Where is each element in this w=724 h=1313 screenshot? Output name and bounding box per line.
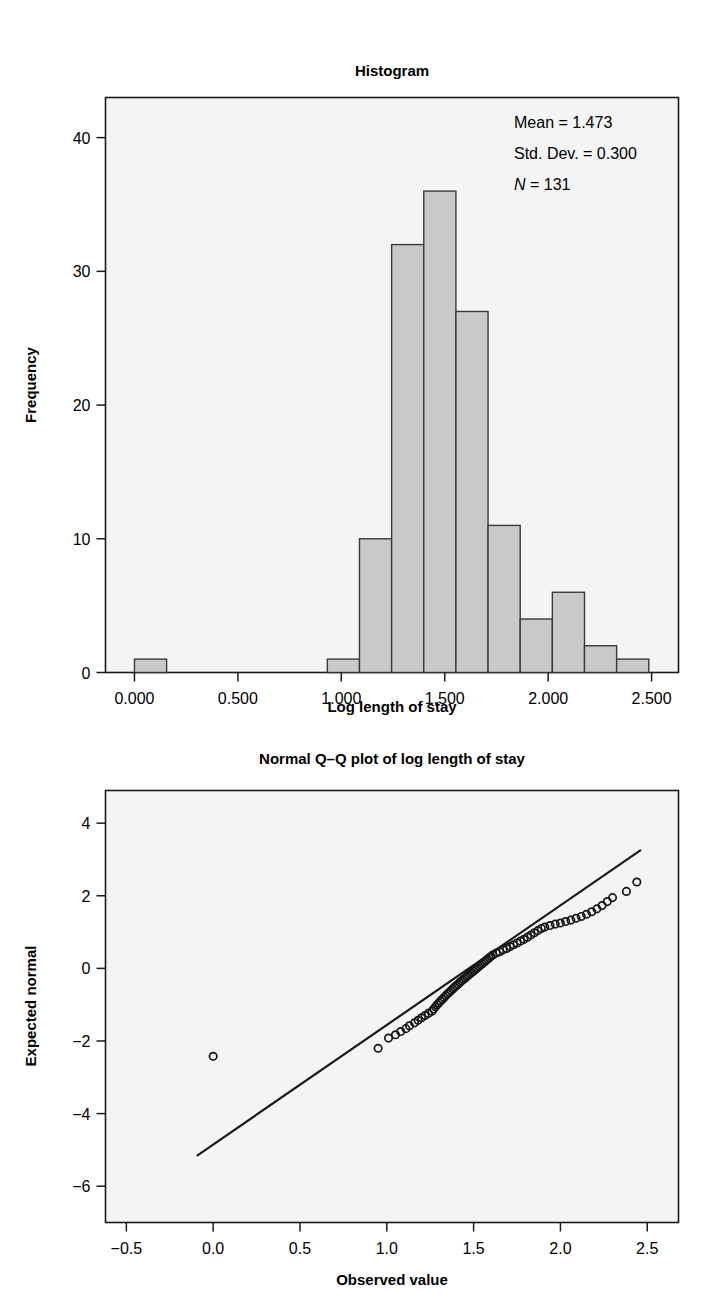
histogram-stddev-annotation: Std. Dev. = 0.300	[514, 145, 637, 162]
histogram-y-axis-label: Frequency	[22, 346, 39, 423]
histogram-panel: Histogram 0.0000.5001.0001.5002.0002.500…	[0, 0, 724, 740]
qq-x-axis-label: Observed value	[336, 1271, 448, 1288]
statistical-figure-page: Histogram 0.0000.5001.0001.5002.0002.500…	[0, 0, 724, 1313]
qq-y-axis-label: Expected normal	[22, 946, 39, 1067]
qq-x-tick-label: 0.5	[289, 1240, 311, 1257]
histogram-bar	[456, 311, 488, 672]
histogram-y-tick-label: 10	[73, 531, 91, 548]
histogram-bar	[617, 659, 649, 672]
qq-y-tick-label: 0	[82, 960, 91, 977]
qq-y-tick-label: −2	[72, 1033, 90, 1050]
qq-x-tick-label: 0.0	[202, 1240, 224, 1257]
qq-x-tick-label: −0.5	[111, 1240, 143, 1257]
histogram-n-symbol: N	[514, 176, 526, 193]
histogram-bar	[552, 592, 584, 672]
histogram-y-tick-label: 30	[73, 263, 91, 280]
histogram-n-value: = 131	[526, 176, 571, 193]
histogram-bar	[134, 659, 166, 672]
qq-x-tick-label: 1.0	[376, 1240, 398, 1257]
qq-y-tick-label: 4	[82, 815, 91, 832]
histogram-chart: Histogram 0.0000.5001.0001.5002.0002.500…	[0, 0, 724, 740]
histogram-bar	[359, 539, 391, 673]
histogram-x-axis-label: Log length of stay	[327, 698, 457, 715]
histogram-x-tick-label: 2.000	[528, 690, 568, 707]
qq-plot-frame	[106, 791, 679, 1223]
histogram-mean-annotation: Mean = 1.473	[514, 114, 612, 131]
histogram-y-tick-label: 40	[73, 130, 91, 147]
histogram-bar	[488, 525, 520, 672]
histogram-bar	[424, 191, 456, 672]
histogram-y-tick-label: 0	[82, 665, 91, 682]
histogram-n-annotation: N = 131	[514, 176, 571, 193]
qq-x-axis-ticks: −0.50.00.51.01.52.02.5	[111, 1223, 659, 1257]
histogram-bar	[327, 659, 359, 672]
histogram-x-tick-label: 2.500	[632, 690, 672, 707]
histogram-y-tick-label: 20	[73, 397, 91, 414]
qq-x-tick-label: 2.5	[636, 1240, 658, 1257]
qq-x-tick-label: 2.0	[549, 1240, 571, 1257]
qq-y-axis-ticks: 420−2−4−6	[72, 815, 105, 1195]
qq-y-tick-label: 2	[82, 888, 91, 905]
qq-plot-title: Normal Q–Q plot of log length of stay	[259, 750, 525, 767]
qq-y-tick-label: −6	[72, 1178, 90, 1195]
histogram-bar	[392, 245, 424, 673]
normal-qq-chart: Normal Q–Q plot of log length of stay −0…	[0, 740, 724, 1313]
histogram-title: Histogram	[355, 62, 429, 79]
histogram-y-axis-ticks: 010203040	[73, 130, 106, 682]
histogram-x-tick-label: 0.500	[218, 690, 258, 707]
histogram-bar	[520, 619, 552, 672]
qq-y-tick-label: −4	[72, 1106, 90, 1123]
histogram-bar	[585, 646, 617, 673]
histogram-x-tick-label: 0.000	[114, 690, 154, 707]
qq-plot-panel: Normal Q–Q plot of log length of stay −0…	[0, 740, 724, 1313]
qq-x-tick-label: 1.5	[462, 1240, 484, 1257]
